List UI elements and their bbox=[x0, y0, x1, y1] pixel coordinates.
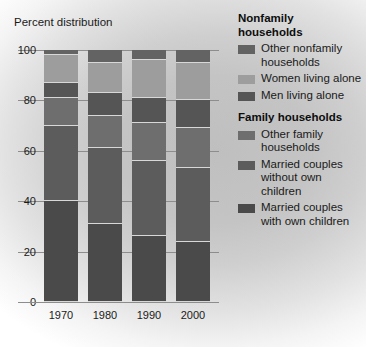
bar-segment bbox=[88, 116, 122, 149]
bar-segment bbox=[132, 50, 166, 60]
stacked-bar-chart: Percent distribution 100806040200 197019… bbox=[0, 0, 366, 347]
y-axis-tick-label: 20 bbox=[24, 246, 36, 258]
bar-segment bbox=[44, 83, 78, 98]
legend-item: Women living alone bbox=[238, 72, 362, 86]
bar-segment bbox=[88, 148, 122, 224]
x-axis-tick-label: 1970 bbox=[39, 309, 83, 321]
bar-segment bbox=[132, 123, 166, 161]
bar-segment bbox=[88, 50, 122, 63]
bar-segment bbox=[176, 242, 210, 302]
chart-title: Percent distribution bbox=[14, 16, 112, 28]
bar-segment bbox=[44, 98, 78, 126]
x-axis-tick-label: 1980 bbox=[83, 309, 127, 321]
legend-items-family: Other family householdsMarried couples w… bbox=[238, 128, 362, 229]
legend-item-label: Men living alone bbox=[261, 89, 344, 103]
legend-item: Men living alone bbox=[238, 89, 362, 103]
bar-1990: 1990 bbox=[132, 50, 166, 302]
legend-swatch-icon bbox=[238, 45, 255, 54]
bar-segment bbox=[176, 128, 210, 168]
bar-segment bbox=[132, 161, 166, 237]
legend-group-title-family: Family households bbox=[238, 111, 362, 125]
y-axis-tick-label: 80 bbox=[24, 94, 36, 106]
bar-segment bbox=[44, 126, 78, 202]
legend-item-label: Married couples with own children bbox=[261, 201, 362, 228]
legend-item-label: Other nonfamily households bbox=[261, 42, 362, 69]
bar-segment bbox=[88, 93, 122, 116]
bar-segment bbox=[44, 201, 78, 302]
bar-segment bbox=[176, 168, 210, 241]
legend-item: Other nonfamily households bbox=[238, 42, 362, 69]
x-axis-tick-label: 1990 bbox=[127, 309, 171, 321]
bar-segment bbox=[88, 224, 122, 302]
legend-swatch-icon bbox=[238, 92, 255, 101]
legend-item-label: Married couples without own children bbox=[261, 158, 362, 199]
legend-item: Other family households bbox=[238, 128, 362, 155]
bar-1980: 1980 bbox=[88, 50, 122, 302]
bar-1970: 1970 bbox=[44, 50, 78, 302]
legend-item: Married couples without own children bbox=[238, 158, 362, 199]
bar-segment bbox=[132, 236, 166, 302]
legend-items-nonfamily: Other nonfamily householdsWomen living a… bbox=[238, 42, 362, 102]
legend-item-label: Women living alone bbox=[261, 72, 361, 86]
legend-title-line-1: Family households bbox=[238, 111, 362, 125]
legend-title-line-2: households bbox=[238, 26, 362, 40]
plot-area: 100806040200 1970198019902000 bbox=[42, 50, 219, 302]
x-axis-tick-label: 2000 bbox=[171, 309, 215, 321]
chart-legend: Nonfamily households Other nonfamily hou… bbox=[238, 12, 362, 231]
bar-segment bbox=[132, 60, 166, 98]
bar-2000: 2000 bbox=[176, 50, 210, 302]
legend-swatch-icon bbox=[238, 75, 255, 84]
legend-item-label: Other family households bbox=[261, 128, 362, 155]
legend-swatch-icon bbox=[238, 131, 255, 140]
legend-title-line-1: Nonfamily bbox=[238, 12, 362, 26]
legend-swatch-icon bbox=[238, 161, 255, 170]
legend-item: Married couples with own children bbox=[238, 201, 362, 228]
x-axis-baseline bbox=[18, 302, 219, 303]
bar-segment bbox=[44, 55, 78, 83]
bar-segment bbox=[176, 63, 210, 101]
legend-swatch-icon bbox=[238, 204, 255, 213]
y-axis-tick-label: 40 bbox=[24, 195, 36, 207]
bar-segment bbox=[88, 63, 122, 93]
bar-segment bbox=[132, 98, 166, 123]
legend-group-title-nonfamily: Nonfamily households bbox=[238, 12, 362, 39]
y-axis-tick-label: 60 bbox=[24, 145, 36, 157]
bar-segment bbox=[176, 50, 210, 63]
bar-segment bbox=[176, 100, 210, 128]
y-axis-tick-label: 100 bbox=[18, 44, 36, 56]
